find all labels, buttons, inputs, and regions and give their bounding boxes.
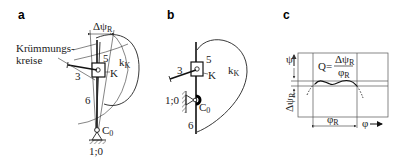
curve-kk-label: kK (228, 64, 240, 78)
panel-a: a ΔψR Krümmungs- kreise 5 kK K 3 6 (16, 8, 139, 157)
link-6-label: 6 (85, 94, 91, 106)
formula-numerator: ΔψR (335, 53, 355, 67)
link-3-label: 3 (177, 64, 183, 76)
mechanism-figure: a ΔψR Krümmungs- kreise 5 kK K 3 6 (0, 0, 396, 162)
delta-psi-label: ΔψR (93, 20, 113, 34)
point-k-label: K (208, 69, 216, 81)
link-6-label: 6 (188, 119, 194, 131)
formula-lhs: Q= (318, 60, 332, 72)
link-5-label: 5 (206, 53, 212, 65)
panel-b-label: b (167, 8, 174, 22)
panel-b: b 5 3 K kK 1;0 C0 6 (165, 8, 247, 134)
phi-r-label: φR (327, 113, 339, 127)
curve-kk-label: kK (119, 56, 131, 70)
ground-label: 1;0 (165, 94, 180, 106)
link-3-label: 3 (75, 70, 81, 82)
ground-label: 1;0 (89, 145, 104, 157)
formula-denominator: φR (338, 66, 350, 80)
point-k-label: K (110, 67, 118, 79)
kruemmungskreise-label-2: kreise (16, 54, 42, 66)
phi-axis-label: φ (362, 117, 368, 129)
link-5-label: 5 (103, 52, 109, 64)
ground-hatch (182, 91, 186, 113)
panel-c-label: c (283, 8, 290, 22)
panel-a-label: a (18, 8, 25, 22)
delta-psi-axis-label: ΔψR (283, 92, 297, 112)
kruemmungskreise-label-1: Krümmungs- (16, 42, 75, 54)
panel-c: c ψ ΔψR Q= ΔψR φR φR φ (283, 8, 388, 129)
pivot-c0-label: C0 (102, 124, 113, 138)
ground-hatch (89, 140, 106, 144)
coupler-curve-kk (197, 40, 247, 132)
pivot-c0-label: C0 (199, 101, 210, 115)
psi-axis-label: ψ (286, 53, 293, 65)
span-line-right (98, 30, 114, 132)
pointer-line-1 (73, 44, 96, 50)
ground-support (92, 132, 102, 140)
